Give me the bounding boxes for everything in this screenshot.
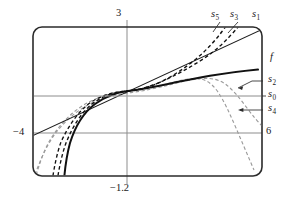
curve-label-s4: s4 [268, 103, 276, 114]
curve-f [64, 70, 258, 180]
curve-s3 [57, 21, 243, 182]
curve-label-s5: s5 [211, 9, 219, 20]
curve-label-s1: s1 [252, 9, 260, 20]
taylor-series-figure: 3 −1.2 −4 6 s5 s3 s1 f s2 s0 s4 [0, 0, 295, 202]
leader-s4-arrowhead [238, 108, 243, 112]
x-tick-label-top: 3 [116, 8, 121, 19]
curve-s5 [52, 17, 234, 183]
curve-label-s2: s2 [268, 74, 276, 85]
curve-label-f: f [270, 52, 273, 63]
curve-label-s3: s3 [230, 9, 238, 20]
x-tick-label-bottom: −1.2 [110, 183, 129, 194]
curve-s2 [33, 78, 262, 180]
curve-label-s0: s0 [268, 89, 276, 100]
plot-canvas [0, 0, 295, 202]
curve-s1 [33, 30, 262, 136]
y-tick-label-right: 6 [266, 126, 271, 137]
y-tick-label-left: −4 [13, 127, 24, 138]
